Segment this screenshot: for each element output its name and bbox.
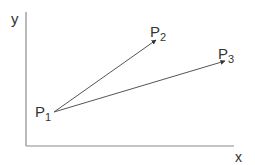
point-label-p2: P2 — [150, 23, 166, 43]
vector-p1-p2 — [54, 40, 156, 112]
vector-diagram: y x P1 P2 P3 — [0, 0, 255, 165]
point-label-p1: P1 — [35, 103, 51, 123]
x-axis-label: x — [235, 149, 242, 165]
y-axis-label: y — [11, 10, 19, 27]
vector-p1-p3 — [54, 61, 225, 112]
